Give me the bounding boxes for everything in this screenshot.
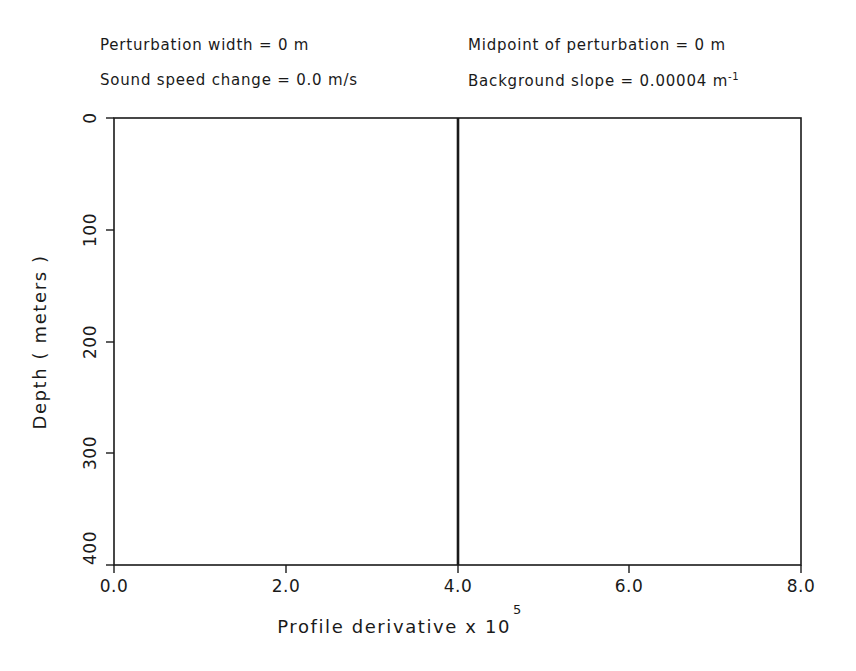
y-axis-ticks: [106, 118, 114, 565]
x-tick-label-0: 0.0: [100, 576, 129, 596]
y-axis-label: Depth ( meters ): [29, 254, 50, 429]
x-tick-label-8: 8.0: [787, 576, 816, 596]
x-axis-label: Profile derivative x 10: [277, 616, 511, 637]
x-tick-label-6: 6.0: [615, 576, 644, 596]
x-axis-label-exponent: 5: [513, 602, 521, 617]
y-tick-label-0: 0: [80, 112, 100, 123]
x-tick-label-4: 4.0: [444, 576, 473, 596]
x-axis-ticks: [114, 565, 801, 573]
y-tick-label-100: 100: [80, 213, 100, 247]
y-tick-label-400: 400: [80, 531, 100, 565]
x-tick-label-2: 2.0: [272, 576, 301, 596]
y-tick-label-200: 200: [80, 325, 100, 359]
chart: 0 100 200 300 400 0.0 2.0 4.0 6.0 8.0 De…: [0, 0, 856, 671]
y-tick-label-300: 300: [80, 436, 100, 470]
